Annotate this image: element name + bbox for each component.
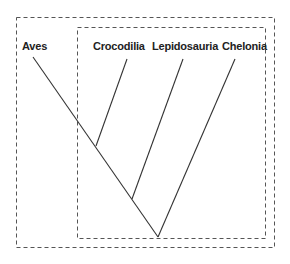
taxon-label-crocodilia: Crocodilia — [93, 40, 145, 52]
branch-crocodilia — [96, 59, 127, 146]
taxon-label-aves: Aves — [22, 40, 47, 52]
taxon-label-lepidosauria: Lepidosauria — [152, 40, 218, 52]
outer-dashed-box — [17, 18, 275, 248]
branch-chelonia — [158, 59, 235, 237]
taxon-label-chelonia: Chelonia — [222, 40, 267, 52]
cladogram-figure: Aves Crocodilia Lepidosauria Chelonia — [0, 0, 290, 264]
branch-lepidosauria — [132, 59, 183, 199]
branch-aves — [33, 57, 158, 237]
